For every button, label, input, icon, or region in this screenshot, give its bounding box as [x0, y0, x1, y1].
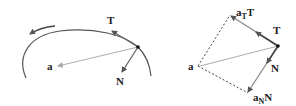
- tangent-label: T: [107, 14, 115, 26]
- left-figure: T N a: [23, 14, 151, 87]
- dashed-line-to-normal: [198, 66, 248, 93]
- normal-label: N: [271, 62, 279, 74]
- normal-label: N: [116, 75, 124, 87]
- tangent-label: T: [273, 24, 281, 36]
- dashed-line-to-tangential: [198, 15, 230, 66]
- point-q: [276, 44, 280, 48]
- point-on-curve: [136, 45, 140, 49]
- acceleration-label: a: [47, 60, 53, 72]
- acceleration-decomposition-diagram: T N a a aTT T N aNN: [0, 0, 296, 106]
- trajectory-curve: [23, 30, 151, 78]
- tangent-vector: [112, 31, 138, 47]
- acceleration-label: a: [188, 60, 194, 72]
- acceleration-vector: [58, 47, 138, 66]
- right-figure: a aTT T N aNN: [188, 6, 281, 106]
- tangential-component-label: aTT: [236, 6, 255, 21]
- normal-component-label: aNN: [253, 91, 272, 106]
